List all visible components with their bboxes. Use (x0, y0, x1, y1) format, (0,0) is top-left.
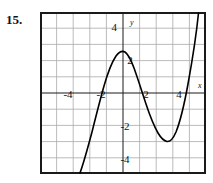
x-tick-label-pos2: 2 (143, 88, 149, 100)
problem-number: 15. (6, 12, 22, 28)
y-axis-label: y (129, 18, 134, 27)
y-tick-label-neg4: -4 (120, 153, 130, 165)
x-tick-label-neg4: -4 (63, 88, 73, 100)
y-tick-label-pos2: 2 (127, 54, 133, 66)
x-tick-label-neg2: -2 (96, 88, 105, 100)
x-tick-label-pos4: 4 (176, 88, 182, 100)
x-axis-label: x (197, 81, 202, 90)
y-tick-label-pos4: 4 (112, 21, 118, 33)
coordinate-plane-graph: -4 -2 2 4 4 2 -2 -4 y x (40, 12, 206, 174)
graph-figure: -4 -2 2 4 4 2 -2 -4 y x (40, 12, 206, 174)
y-tick-label-neg2: -2 (120, 120, 129, 132)
